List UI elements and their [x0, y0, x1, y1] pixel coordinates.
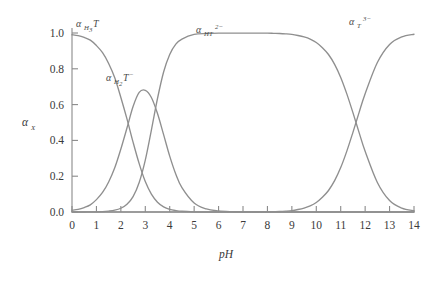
y-axis-tick-labels: 0.0 0.2 0.4 0.6 0.8 1.0 [50, 27, 65, 218]
annotation-h3t: α H 3 T [76, 18, 100, 33]
x-tick-label-9: 9 [289, 219, 295, 231]
x-tick-label-0: 0 [69, 219, 75, 231]
label-h3t-alpha: α [76, 18, 82, 29]
y-tick-label-4: 0.8 [50, 63, 65, 75]
curve-ht2 [72, 33, 414, 212]
y-axis-ticks [72, 33, 78, 212]
annotation-ht2: α HT 2− [196, 23, 223, 37]
x-tick-label-7: 7 [240, 219, 246, 231]
x-tick-label-10: 10 [311, 219, 323, 231]
curve-h3t [72, 35, 414, 212]
label-h3t-t: T [93, 18, 100, 29]
x-tick-label-2: 2 [118, 219, 124, 231]
label-ht2-alpha: α [196, 24, 202, 35]
label-ht2-ht: HT [203, 30, 214, 37]
y-axis-title-alpha: α [22, 116, 29, 128]
y-tick-label-1: 0.2 [50, 170, 65, 182]
x-tick-label-11: 11 [335, 219, 346, 231]
x-tick-label-12: 12 [359, 219, 371, 231]
y-tick-label-3: 0.6 [50, 99, 65, 111]
label-h2t-alpha: α [106, 72, 112, 83]
y-axis-title-subscript: X [30, 124, 36, 131]
x-tick-label-14: 14 [408, 219, 420, 231]
y-axis-title: α X [22, 116, 36, 131]
x-tick-label-5: 5 [191, 219, 197, 231]
label-t3-alpha: α [349, 16, 355, 27]
label-t3-t: T [357, 22, 362, 29]
label-h2t-charge: − [129, 71, 134, 78]
curve-t3 [72, 34, 414, 212]
annotation-t3: α T 3− [349, 15, 371, 29]
x-tick-label-1: 1 [94, 219, 100, 231]
y-tick-label-0: 0.0 [50, 206, 65, 218]
x-tick-label-4: 4 [167, 219, 173, 231]
y-tick-label-2: 0.4 [50, 134, 65, 146]
x-axis-tick-labels: 0 1 2 3 4 5 6 7 8 9 10 11 12 13 14 [69, 219, 420, 231]
curve-group [72, 33, 414, 212]
chart-svg: 0.0 0.2 0.4 0.6 0.8 1.0 α X [0, 0, 435, 282]
x-tick-label-13: 13 [384, 219, 396, 231]
y-tick-label-5: 1.0 [50, 27, 65, 39]
x-axis-title: pH [218, 248, 234, 261]
label-t3-charge: 3− [362, 15, 371, 22]
x-tick-label-6: 6 [216, 219, 222, 231]
speciation-chart-figure: 0.0 0.2 0.4 0.6 0.8 1.0 α X [0, 0, 435, 282]
annotation-h2t: α H 2 T − [106, 71, 134, 87]
x-tick-label-3: 3 [142, 219, 148, 231]
label-ht2-charge: 2− [215, 23, 223, 30]
x-tick-label-8: 8 [265, 219, 271, 231]
